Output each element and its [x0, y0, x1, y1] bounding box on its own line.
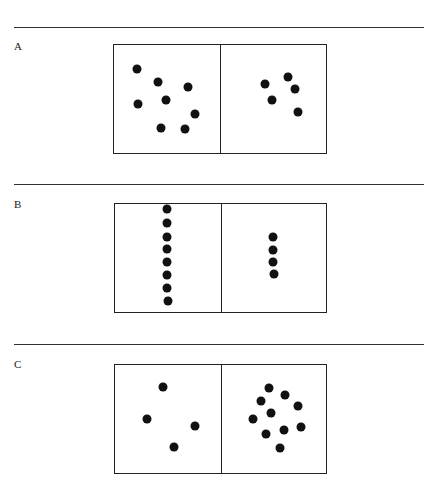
panel-label-b: B — [14, 198, 21, 210]
dot-left — [191, 422, 200, 431]
panel-label-a: A — [14, 40, 22, 52]
dot-left — [163, 245, 172, 254]
dot-left — [134, 100, 143, 109]
dot-right — [262, 430, 271, 439]
dot-right — [267, 409, 276, 418]
dot-left — [184, 83, 193, 92]
dot-right — [280, 426, 289, 435]
dot-right — [281, 391, 290, 400]
separator-rule-b — [14, 184, 424, 185]
dot-right — [270, 270, 279, 279]
dot-left — [133, 65, 142, 74]
dot-left — [143, 415, 152, 424]
dot-right — [268, 96, 277, 105]
separator-rule-c — [14, 344, 424, 345]
dot-left — [154, 78, 163, 87]
dot-left — [157, 124, 166, 133]
dot-left — [163, 258, 172, 267]
left-box-c — [114, 364, 222, 474]
dot-right — [269, 246, 278, 255]
dot-left — [181, 125, 190, 134]
dot-right — [276, 444, 285, 453]
dot-left — [163, 284, 172, 293]
dot-right — [249, 415, 258, 424]
dot-left — [163, 219, 172, 228]
dot-left — [164, 297, 173, 306]
dot-left — [159, 383, 168, 392]
dot-right — [261, 80, 270, 89]
dot-right — [269, 258, 278, 267]
dot-right — [297, 423, 306, 432]
dot-left — [170, 443, 179, 452]
right-box-c — [221, 364, 327, 474]
dot-right — [265, 384, 274, 393]
separator-rule-a — [14, 27, 424, 28]
dot-right — [294, 402, 303, 411]
dot-left — [191, 110, 200, 119]
dot-right — [291, 85, 300, 94]
dot-right — [294, 108, 303, 117]
dot-right — [269, 233, 278, 242]
dot-left — [162, 96, 171, 105]
clipped-caption-text — [12, 0, 262, 2]
dot-left — [163, 233, 172, 242]
panel-label-c: C — [14, 358, 21, 370]
dot-right — [284, 73, 293, 82]
dot-right — [257, 397, 266, 406]
dot-left — [163, 271, 172, 280]
dot-left — [163, 205, 172, 214]
